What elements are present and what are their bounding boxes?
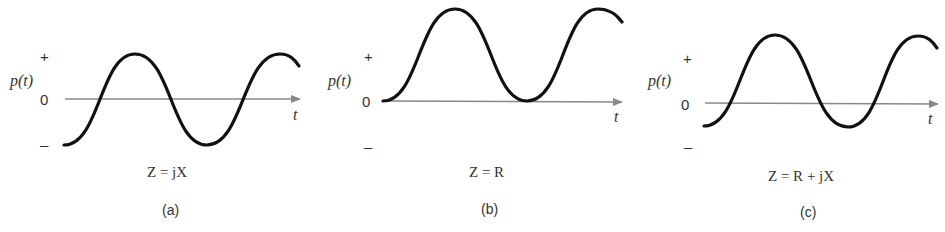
panel-a: + p(t) 0 – t Z = jX (a) [9, 48, 300, 218]
minus-tick-label: – [40, 136, 49, 153]
equation-label: Z = R [469, 164, 504, 180]
equation-label: Z = jX [147, 164, 187, 180]
time-axis [383, 101, 622, 102]
x-axis-label: t [293, 106, 298, 123]
y-axis-label: p(t) [327, 72, 351, 90]
y-axis-label: p(t) [647, 72, 671, 90]
equation-label: Z = R + jX [768, 168, 834, 184]
plus-tick-label: + [40, 48, 49, 65]
zero-tick-label: 0 [40, 91, 48, 108]
plus-tick-label: + [683, 50, 692, 67]
power-curve [704, 35, 937, 127]
panel-caption: (b) [481, 201, 498, 217]
minus-tick-label: – [684, 138, 693, 155]
panel-caption: (c) [800, 204, 816, 220]
x-axis-label: t [614, 108, 619, 125]
panel-caption: (a) [162, 202, 179, 218]
power-waveform-figure: + p(t) 0 – t Z = jX (a) + p(t) 0 – t Z =… [0, 0, 945, 232]
minus-tick-label: – [364, 138, 373, 155]
panel-b: + p(t) 0 – t Z = R (b) [327, 9, 622, 217]
power-curve [383, 9, 622, 101]
panel-c: + p(t) 0 – t Z = R + jX (c) [647, 35, 938, 220]
plus-tick-label: + [364, 48, 373, 65]
zero-tick-label: 0 [681, 96, 689, 113]
x-axis-label: t [928, 110, 933, 127]
y-axis-label: p(t) [9, 72, 33, 90]
zero-tick-label: 0 [362, 93, 370, 110]
